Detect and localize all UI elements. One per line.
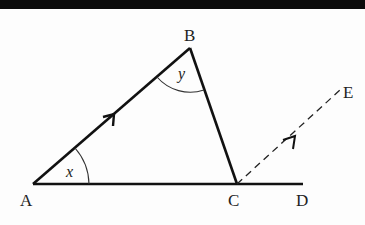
- angle-label-y: y: [176, 65, 186, 83]
- label-D: D: [296, 191, 308, 210]
- angle-label-x: x: [65, 163, 73, 180]
- geometry-diagram: A B C D E x y: [0, 0, 365, 225]
- segment-AB: [33, 48, 190, 184]
- label-C: C: [228, 191, 239, 210]
- parallel-arrow-CE-icon: [283, 136, 295, 149]
- segment-CE: [237, 90, 340, 184]
- label-A: A: [20, 191, 33, 210]
- triangle-figure: A B C D E x y: [0, 0, 365, 225]
- angle-arc-A: [75, 148, 89, 184]
- segment-BC: [190, 48, 237, 184]
- label-B: B: [184, 26, 195, 45]
- label-E: E: [343, 83, 353, 102]
